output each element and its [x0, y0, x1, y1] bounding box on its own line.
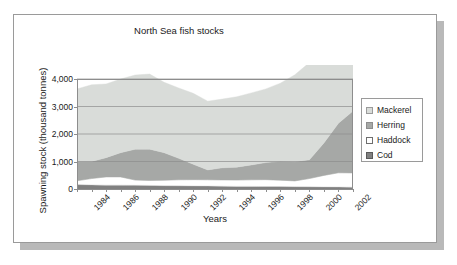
legend-item-herring[interactable]: Herring	[366, 118, 422, 132]
x-tick-mark	[135, 189, 136, 192]
legend-item-cod[interactable]: Cod	[366, 148, 422, 162]
x-tick-mark	[150, 189, 151, 192]
legend-item-haddock[interactable]: Haddock	[366, 133, 422, 147]
x-tick-mark	[121, 189, 122, 192]
plot-area: 01,0002,0003,0004,000 198419861988199019…	[77, 65, 353, 189]
figure-card: North Sea fish stocks Spawning stock (th…	[13, 14, 437, 243]
x-tick-mark	[222, 189, 223, 192]
legend-swatch-icon	[366, 122, 373, 129]
y-tick-label: 1,000	[52, 157, 73, 167]
x-tick-mark	[106, 189, 107, 192]
x-tick-label: 2000	[324, 192, 344, 212]
x-tick-mark	[193, 189, 194, 192]
legend-item-label: Haddock	[377, 135, 411, 145]
y-tick-label: 0	[68, 184, 73, 194]
legend: MackerelHerringHaddockCod	[361, 98, 423, 162]
y-tick-label: 3,000	[52, 102, 73, 112]
x-tick-label: 1994	[237, 192, 257, 212]
legend-swatch-icon	[366, 137, 373, 144]
x-tick-mark	[164, 189, 165, 192]
y-tick-label: 4,000	[52, 74, 73, 84]
stacked-area-plot	[77, 65, 353, 189]
x-tick-label: 1996	[266, 192, 286, 212]
y-tick-mark	[74, 134, 77, 135]
legend-item-mackerel[interactable]: Mackerel	[366, 103, 422, 117]
x-tick-label: 2002	[353, 192, 373, 212]
x-tick-mark	[92, 189, 93, 192]
x-axis-title: Years	[77, 213, 353, 224]
y-tick-mark	[74, 107, 77, 108]
legend-swatch-icon	[366, 107, 373, 114]
x-tick-mark	[280, 189, 281, 192]
x-tick-label: 1984	[92, 192, 112, 212]
x-tick-mark	[309, 189, 310, 192]
x-tick-mark	[266, 189, 267, 192]
x-axis-line	[77, 189, 353, 190]
x-tick-mark	[179, 189, 180, 192]
x-tick-mark	[77, 189, 78, 192]
x-tick-mark	[338, 189, 339, 192]
y-tick-label: 2,000	[52, 129, 73, 139]
chart-title: North Sea fish stocks	[14, 25, 344, 36]
y-tick-mark	[74, 79, 77, 80]
x-tick-label: 1988	[150, 192, 170, 212]
x-tick-mark	[353, 189, 354, 192]
x-tick-label: 1990	[179, 192, 199, 212]
legend-swatch-icon	[366, 152, 373, 159]
y-tick-mark	[74, 162, 77, 163]
x-tick-mark	[295, 189, 296, 192]
x-tick-mark	[251, 189, 252, 192]
x-tick-label: 1986	[121, 192, 141, 212]
legend-item-label: Cod	[377, 150, 393, 160]
legend-item-label: Herring	[377, 120, 405, 130]
legend-item-label: Mackerel	[377, 105, 411, 115]
x-tick-label: 1992	[208, 192, 228, 212]
x-tick-mark	[208, 189, 209, 192]
y-axis-title: Spawning stock (thousand tonnes)	[37, 61, 48, 221]
x-tick-mark	[324, 189, 325, 192]
x-tick-label: 1998	[295, 192, 315, 212]
x-tick-mark	[237, 189, 238, 192]
